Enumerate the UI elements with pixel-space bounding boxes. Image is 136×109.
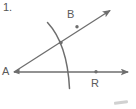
point-label-a: A (2, 66, 9, 77)
point-label-b: B (67, 9, 74, 20)
point-label-r: R (91, 78, 99, 89)
geometry-figure: 1. B A R (0, 0, 136, 109)
ray-ar (13, 70, 128, 74)
compass-arc (48, 23, 70, 89)
point-marker-on-ray-ab (75, 25, 78, 28)
figure-number-label: 1. (3, 2, 12, 13)
point-marker-r (94, 70, 97, 73)
point-marker-arc-intersection (59, 41, 63, 45)
